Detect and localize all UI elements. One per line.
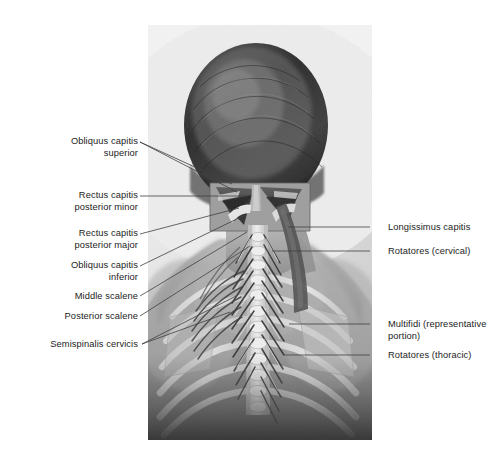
anatomy-figure: Obliquus capitis superiorRectus capitis … <box>0 0 500 454</box>
label-posterior-scalene: Posterior scalene <box>18 311 138 323</box>
label-rectus-capitis-posterior-minor: Rectus capitis posterior minor <box>18 190 138 213</box>
label-longissimus-capitis: Longissimus capitis <box>388 222 498 234</box>
anatomy-photo-illustration <box>148 25 372 440</box>
label-rotatores-cervical: Rotatores (cervical) <box>388 246 498 258</box>
label-rotatores-thoracic: Rotatores (thoracic) <box>388 350 500 362</box>
label-rectus-capitis-posterior-major: Rectus capitis posterior major <box>18 228 138 251</box>
anatomy-photograph <box>148 25 372 440</box>
label-semispinalis-cervicis: Semispinalis cervicis <box>12 339 138 351</box>
label-middle-scalene: Middle scalene <box>18 291 138 303</box>
label-multifidi-representative-portion: Multifidi (representative portion) <box>388 319 500 342</box>
label-obliquus-capitis-superior: Obliquus capitis superior <box>18 136 138 159</box>
label-obliquus-capitis-inferior: Obliquus capitis inferior <box>18 260 138 283</box>
